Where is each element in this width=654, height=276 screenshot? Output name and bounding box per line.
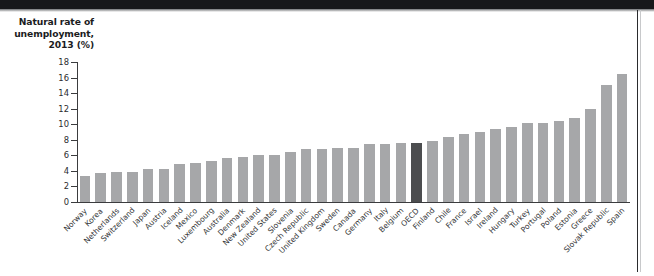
bar-luxembourg xyxy=(206,161,216,202)
bar-poland xyxy=(554,121,564,202)
bar-slovenia xyxy=(285,152,295,202)
y-tick-label: 18 xyxy=(29,57,69,67)
bar-switzerland xyxy=(127,172,137,202)
figure-canvas: Natural rate of unemployment, 2013 (%) 0… xyxy=(0,0,654,276)
bar-spain xyxy=(617,74,627,202)
x-axis-labels: NorwayKoreaNetherlandsSwitzerlandJapanAu… xyxy=(77,204,637,276)
page-top-band xyxy=(0,0,654,9)
bar-czech-republic xyxy=(301,149,311,202)
bar-sweden xyxy=(332,148,342,202)
bar-estonia xyxy=(569,118,579,202)
y-tick-label: 14 xyxy=(29,88,69,98)
bar-ireland xyxy=(490,129,500,202)
bar-australia xyxy=(222,158,232,202)
bar-slovak-republic xyxy=(601,85,611,202)
bar-denmark xyxy=(238,157,248,202)
bar-turkey xyxy=(522,123,532,202)
bar-italy xyxy=(380,144,390,202)
bar-belgium xyxy=(396,143,406,202)
bar-oecd xyxy=(411,143,421,202)
page-top-band-shadow xyxy=(0,9,654,12)
y-tick-label: 12 xyxy=(29,104,69,114)
bar-israel xyxy=(475,132,485,202)
y-axis-title: Natural rate of unemployment, 2013 (%) xyxy=(2,16,94,51)
y-tick-label: 4 xyxy=(29,166,69,176)
bar-new-zealand xyxy=(253,155,263,202)
bar-chile xyxy=(443,137,453,202)
bar-united-states xyxy=(269,155,279,202)
bar-japan xyxy=(143,169,153,202)
bar-norway xyxy=(80,176,90,202)
bar-greece xyxy=(585,109,595,202)
bar-hungary xyxy=(506,127,516,202)
y-tick-label: 10 xyxy=(29,119,69,129)
figure-frame-right xyxy=(637,10,638,272)
figure-frame-right-inner xyxy=(640,10,641,272)
y-tick-label: 6 xyxy=(29,150,69,160)
bar-austria xyxy=(159,169,169,202)
bar-united-kingdom xyxy=(317,149,327,202)
y-tick-label: 0 xyxy=(29,197,69,207)
bar-series xyxy=(77,62,630,202)
bar-mexico xyxy=(190,163,200,202)
bar-portugal xyxy=(538,123,548,202)
bar-netherlands xyxy=(111,172,121,202)
bar-canada xyxy=(348,148,358,202)
bar-france xyxy=(459,134,469,202)
bar-korea xyxy=(95,173,105,202)
y-tick-label: 2 xyxy=(29,181,69,191)
bar-iceland xyxy=(174,164,184,202)
y-tick-label: 16 xyxy=(29,73,69,83)
bar-finland xyxy=(427,141,437,202)
y-tick xyxy=(71,202,77,203)
x-axis-baseline xyxy=(77,202,630,203)
bar-germany xyxy=(364,144,374,202)
y-tick-label: 8 xyxy=(29,135,69,145)
